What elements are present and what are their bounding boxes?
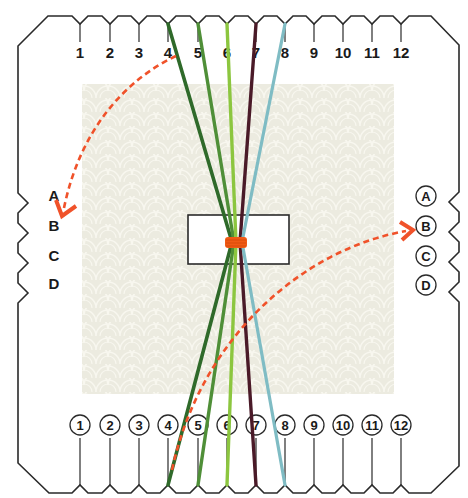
bottom-label-11: 11 (365, 418, 379, 433)
bottom-label-9: 9 (310, 418, 317, 433)
bottom-label-2: 2 (106, 418, 113, 433)
bottom-label-1: 1 (76, 418, 83, 433)
binding-wrap (225, 237, 247, 248)
bottom-label-10: 10 (336, 418, 350, 433)
left-label-c: C (49, 247, 60, 264)
right-label-d: D (421, 278, 430, 293)
bottom-label-8: 8 (281, 418, 288, 433)
kumihimo-plate-diagram: 1 2 3 4 5 6 7 8 9 10 11 12 1 2 3 4 5 6 (0, 0, 468, 498)
top-label-12: 12 (393, 44, 410, 61)
top-label-11: 11 (364, 44, 380, 61)
bottom-label-3: 3 (135, 418, 142, 433)
top-label-10: 10 (335, 44, 352, 61)
bottom-label-12: 12 (394, 418, 408, 433)
top-label-9: 9 (310, 44, 318, 61)
top-label-1: 1 (76, 44, 84, 61)
bottom-label-5: 5 (194, 418, 201, 433)
right-label-a: A (421, 189, 431, 204)
left-label-d: D (49, 275, 60, 292)
left-label-b: B (49, 217, 60, 234)
top-label-2: 2 (106, 44, 114, 61)
right-label-c: C (421, 249, 431, 264)
right-label-b: B (421, 219, 430, 234)
bottom-label-4: 4 (164, 418, 172, 433)
top-label-3: 3 (135, 44, 143, 61)
